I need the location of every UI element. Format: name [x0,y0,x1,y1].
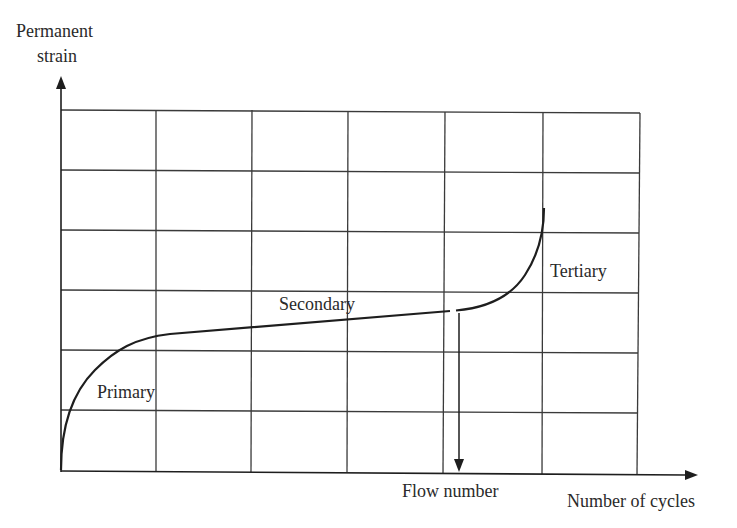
tertiary-label: Tertiary [550,262,607,280]
grid [61,110,640,474]
flow-number-arrow-head-icon [454,459,464,472]
flow-number-label: Flow number [402,482,499,500]
primary-label: Primary [97,383,155,401]
x-axis-label: Number of cycles [567,492,695,510]
y-axis-label-line1: Permanent [16,22,93,40]
secondary-label: Secondary [279,295,355,313]
y-axis-arrow-icon [56,76,66,89]
x-axis [61,471,686,475]
x-axis-arrow-icon [685,470,698,480]
strain-diagram [0,0,737,528]
strain-curve-tertiary [456,208,544,311]
y-axis-label-line2: strain [37,47,77,65]
